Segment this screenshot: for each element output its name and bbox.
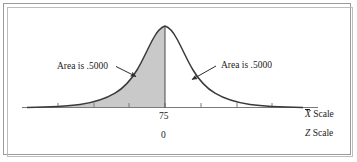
normal-distribution-plot	[0, 0, 357, 162]
left-annotation-leader	[116, 67, 136, 77]
x-bar-symbol: X	[305, 110, 311, 120]
z-axis-center-value: 0	[161, 131, 166, 141]
z-scale-label: Z Scale	[305, 129, 333, 139]
x-scale-text: Scale	[313, 109, 334, 119]
right-area-label: Area is .5000	[221, 61, 272, 71]
z-scale-text: Scale	[313, 128, 334, 138]
x-axis-center-value: 75	[159, 112, 169, 122]
x-scale-label: X Scale	[305, 110, 334, 120]
left-area-label: Area is .5000	[57, 62, 108, 72]
normal-curve-figure: Area is .5000 Area is .5000 75 0 X Scale…	[0, 0, 357, 162]
